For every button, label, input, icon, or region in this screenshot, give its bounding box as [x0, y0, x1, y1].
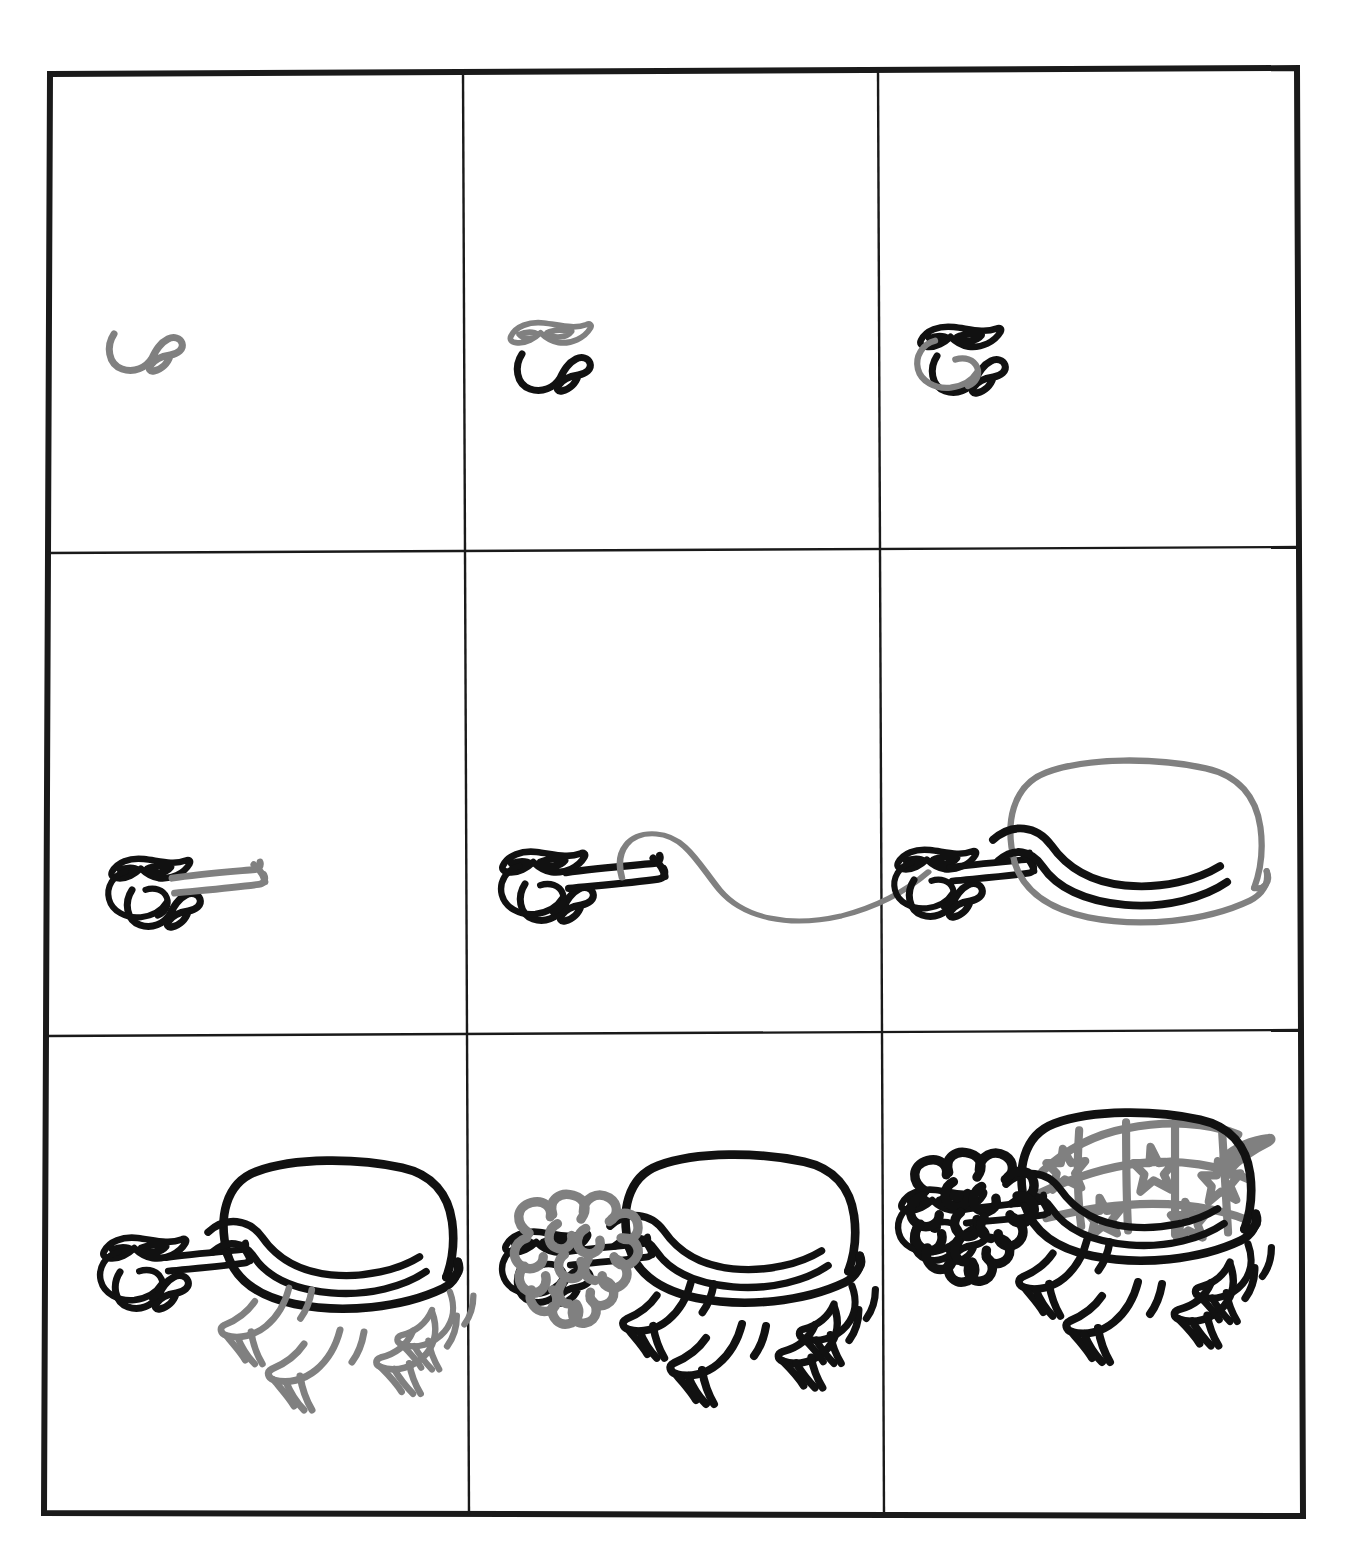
step-cell-4[interactable] — [108, 859, 265, 927]
step-cell-3[interactable] — [917, 327, 1005, 394]
existing-snout — [517, 354, 590, 391]
grid-frame — [44, 68, 1303, 1516]
grid-line-h1 — [47, 547, 1299, 553]
step-cell-9[interactable] — [898, 1113, 1273, 1362]
tutorial-grid — [0, 0, 1345, 1551]
step-cell-8[interactable] — [502, 1155, 875, 1404]
existing-curly-hair — [910, 1152, 1034, 1282]
drawing-sheet — [0, 0, 1345, 1551]
step-cell-5[interactable] — [501, 834, 928, 921]
step-cell-6[interactable] — [894, 761, 1268, 923]
grid-line-v2 — [878, 70, 884, 1515]
step-cell-1[interactable] — [109, 334, 182, 371]
existing-shell-neck-swoop — [993, 828, 1227, 905]
step-cell-2[interactable] — [510, 323, 591, 392]
new-stroke-curly-hair — [514, 1194, 638, 1324]
grid-line-v1 — [463, 72, 469, 1515]
step-cell-7[interactable] — [100, 1161, 473, 1410]
new-stroke-snout — [109, 334, 182, 371]
outer-border — [44, 68, 1303, 1516]
grid-line-h2 — [46, 1030, 1301, 1036]
new-stroke-sunglasses — [510, 323, 591, 343]
